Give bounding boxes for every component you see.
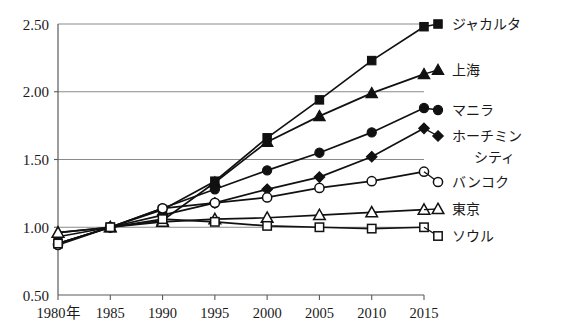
legend-label: バンコク (452, 174, 509, 190)
x-tick-label: 1980年 (37, 305, 80, 321)
x-tick-label: 2000 (253, 305, 282, 321)
data-point-marker (368, 56, 376, 64)
data-point-marker (315, 148, 324, 157)
line-chart: 0.501.001.502.002.50 1980年19851990199520… (0, 0, 585, 329)
data-point-marker (367, 177, 376, 186)
legend-label: ジャカルタ (452, 16, 521, 32)
data-point-marker (54, 239, 62, 247)
y-tick-label: 1.50 (23, 152, 49, 168)
data-point-marker (315, 183, 324, 192)
y-tick-label: 1.00 (23, 220, 49, 236)
y-tick-label: 2.00 (23, 84, 49, 100)
data-point-marker (210, 198, 219, 207)
legend-label: マニラ (452, 102, 494, 118)
x-tick-label: 2005 (305, 305, 334, 321)
y-tick-label: 2.50 (23, 17, 49, 33)
data-point-marker (263, 222, 271, 230)
x-tick-label: 1985 (96, 305, 125, 321)
legend-marker (433, 105, 442, 114)
data-point-marker (367, 128, 376, 137)
x-tick-label: 2015 (410, 305, 439, 321)
legend-label: 上海 (452, 62, 480, 78)
x-tick-label: 1995 (200, 305, 229, 321)
chart-canvas: 0.501.001.502.002.50 1980年19851990199520… (0, 0, 585, 329)
x-tick-label: 2010 (357, 305, 386, 321)
data-point-marker (263, 166, 272, 175)
legend-label: 東京 (452, 201, 480, 217)
data-point-marker (315, 223, 323, 231)
data-point-marker (211, 218, 219, 226)
data-point-marker (106, 223, 114, 231)
legend-marker (434, 232, 442, 240)
data-point-marker (368, 224, 376, 232)
legend-marker (433, 177, 442, 186)
data-point-marker (210, 185, 219, 194)
data-point-marker (315, 96, 323, 104)
legend-marker (434, 20, 442, 28)
legend-label: ソウル (452, 228, 494, 244)
data-point-marker (158, 204, 167, 213)
y-tick-label: 0.50 (23, 288, 49, 304)
data-point-marker (263, 193, 272, 202)
data-point-marker (158, 215, 166, 223)
x-tick-label: 1990 (148, 305, 177, 321)
